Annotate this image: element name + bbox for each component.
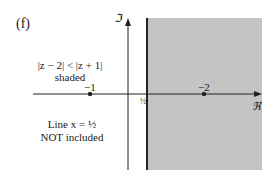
boundary-line-label: Line x = ½ [22, 118, 122, 130]
boundary-not-included-label: NOT included [22, 131, 122, 143]
point-two-label: −2 [198, 81, 210, 93]
half-tick-label: ½ [140, 96, 146, 108]
region-shaded-label: shaded [30, 71, 110, 83]
complex-plane-diagram [0, 0, 273, 186]
region-inequality-label: |z − 2| < |z + 1| [30, 59, 110, 71]
panel-label: (f) [16, 18, 30, 30]
imaginary-axis-label: ℑ [114, 12, 122, 24]
real-axis-label: ℜ [252, 100, 261, 112]
imaginary-axis-arrow-icon [125, 18, 131, 26]
point-minus-one-label: −1 [84, 81, 96, 93]
